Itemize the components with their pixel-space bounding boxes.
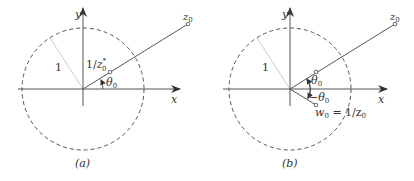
- z0-label: z0: [182, 11, 193, 24]
- angle-arc: [101, 80, 103, 89]
- panel-a: y x 1 z0 1/z*0 θ0 (a): [18, 8, 193, 170]
- ray-z0: [83, 24, 188, 89]
- inverse-conj-label: 1/z*0: [86, 57, 107, 73]
- point-inverse-conj: [108, 70, 112, 74]
- theta0-label: θ0: [311, 74, 322, 88]
- x-axis-label: x: [378, 93, 385, 106]
- caption-a: (a): [75, 157, 90, 170]
- radius-label: 1: [55, 61, 62, 74]
- theta0-label: θ0: [106, 76, 117, 90]
- y-axis-label: y: [281, 8, 289, 21]
- diagram-canvas: y x 1 z0 1/z*0 θ0 (a) y x 1 z0 θ0 −θ0 w0…: [0, 0, 414, 181]
- radius-label: 1: [262, 61, 269, 74]
- ray-z0: [290, 24, 395, 89]
- caption-b: (b): [282, 157, 298, 170]
- x-axis-label: x: [171, 93, 178, 106]
- w0-label: w0 = 1/z0: [315, 106, 366, 120]
- panel-b: y x 1 z0 θ0 −θ0 w0 = 1/z0 (b): [223, 8, 400, 170]
- y-axis-label: y: [74, 8, 82, 21]
- neg-theta0-label: −θ0: [309, 91, 329, 105]
- z0-label: z0: [389, 11, 400, 24]
